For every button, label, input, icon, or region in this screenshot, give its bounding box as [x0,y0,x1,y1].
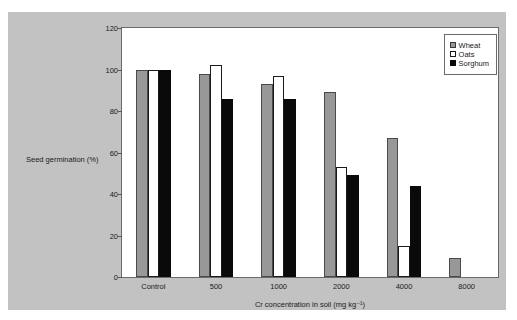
chart-panel: Seed germination (%) Cr concentration in… [8,12,506,310]
bar-group: 4000 [387,28,422,277]
bar-wheat-0 [136,70,148,278]
legend-label: Oats [459,51,475,59]
y-axis-tick-label: 80 [110,107,118,116]
bar-wheat-4 [387,138,399,277]
legend-swatch-wheat-icon [450,42,456,48]
plot-area: 020406080100120Control500100020004000800… [121,27,499,278]
y-axis-tick-mark [118,28,122,29]
bar-sorghum-1 [222,99,234,277]
y-axis-tick-label: 40 [110,190,118,199]
bar-group: 2000 [324,28,359,277]
x-axis-tick-label: 500 [185,282,248,291]
y-axis-tick-mark [118,111,122,112]
y-axis-tick-label: 60 [110,148,118,157]
y-axis-title: Seed germination (%) [26,155,99,164]
bar-group: 500 [199,28,234,277]
bar-oats-2 [273,76,285,277]
bar-group: Control [136,28,171,277]
x-axis-tick-label: Control [122,282,185,291]
bar-wheat-1 [199,74,211,277]
y-axis-tick-mark [118,194,122,195]
x-axis-tick-label: 4000 [373,282,436,291]
x-axis-tick-label: 1000 [247,282,310,291]
bar-group: 1000 [261,28,296,277]
bar-sorghum-3 [347,175,359,277]
legend-label: Sorghum [459,60,489,68]
bar-sorghum-4 [410,186,422,277]
legend-swatch-oats-icon [450,51,456,57]
bars-container: 020406080100120Control500100020004000800… [122,28,498,277]
legend-item-oats: Oats [450,51,489,59]
bar-sorghum-2 [284,99,296,277]
legend-item-sorghum: Sorghum [450,60,489,68]
legend-swatch-sorghum-icon [450,60,456,66]
y-axis-tick-mark [118,70,122,71]
y-axis-tick-label: 20 [110,231,118,240]
legend-label: Wheat [459,42,481,50]
y-axis-tick-mark [118,277,122,278]
bar-wheat-2 [261,84,273,277]
chart-figure: Seed germination (%) Cr concentration in… [0,0,517,320]
x-axis-title: Cr concentration in soil (mg kg⁻¹) [121,300,499,309]
chart-legend: WheatOatsSorghum [444,34,497,75]
y-axis-tick-label: 120 [105,24,118,33]
bar-wheat-3 [324,92,336,277]
y-axis-tick-label: 100 [105,65,118,74]
bar-oats-3 [336,167,348,277]
x-axis-tick-label: 2000 [310,282,373,291]
bar-wheat-5 [449,258,461,277]
bar-oats-4 [398,246,410,277]
bar-oats-1 [210,65,222,277]
bar-sorghum-0 [159,70,171,278]
legend-item-wheat: Wheat [450,42,489,50]
x-axis-tick-label: 8000 [435,282,498,291]
y-axis-tick-mark [118,153,122,154]
y-axis-tick-mark [118,236,122,237]
bar-oats-0 [148,70,160,278]
